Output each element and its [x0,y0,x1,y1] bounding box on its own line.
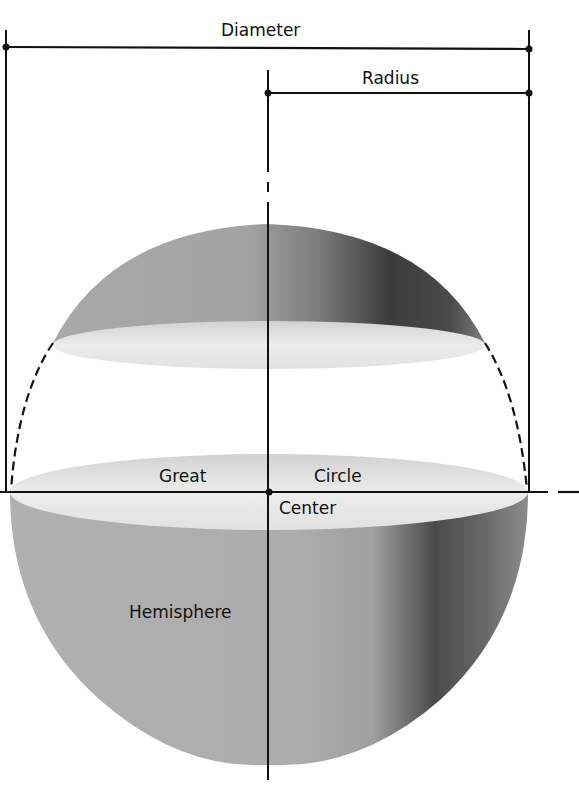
dashed-arc-left [11,343,53,490]
center-point [266,489,273,496]
hemisphere-label: Hemisphere [129,604,231,621]
diameter-label: Diameter [221,22,300,39]
radius-label: Radius [362,70,419,87]
sphere-diagram: Diameter Radius Great Circle Center Hemi… [0,0,579,794]
dashed-arc-right [485,343,527,490]
diagram-canvas [0,0,579,794]
circle-label: Circle [314,468,362,485]
great-label: Great [159,468,206,485]
center-label: Center [279,500,336,517]
